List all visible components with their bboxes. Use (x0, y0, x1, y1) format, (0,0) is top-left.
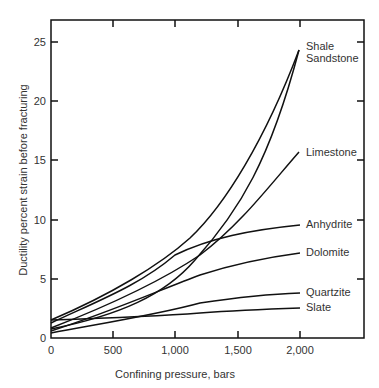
x-tick-label: 1,000 (161, 344, 189, 356)
label-anhydrite: Anhydrite (306, 218, 352, 230)
y-tick-label: 25 (34, 36, 46, 48)
y-tick-label: 5 (40, 273, 46, 285)
x-tick-label: 0 (48, 344, 54, 356)
label-shale: Shale (306, 40, 334, 52)
label-quartzite: Quartzite (306, 286, 351, 298)
y-tick-label: 20 (34, 95, 46, 107)
series-labels: Shale Sandstone Limestone Anhydrite Dolo… (306, 40, 359, 313)
x-axis-title: Confining pressure, bars (115, 368, 235, 380)
y-tick-label: 10 (34, 214, 46, 226)
series-lines (51, 50, 300, 333)
x-tick-label: 500 (104, 344, 122, 356)
y-tick-label: 0 (40, 332, 46, 344)
x-tick-labels: 0 500 1,000 1,500 2,000 (48, 344, 314, 356)
x-ticks (113, 20, 300, 338)
label-dolomite: Dolomite (306, 246, 349, 258)
series-sandstone (51, 50, 299, 329)
x-tick-label: 2,000 (286, 344, 314, 356)
y-tick-label: 15 (34, 154, 46, 166)
x-tick-label: 1,500 (224, 344, 252, 356)
label-slate: Slate (306, 301, 331, 313)
series-slate (51, 308, 300, 320)
y-ticks (51, 42, 364, 279)
label-limestone: Limestone (306, 146, 357, 158)
label-sandstone: Sandstone (306, 52, 359, 64)
y-tick-labels: 0 5 10 15 20 25 (34, 36, 46, 344)
chart: 0 500 1,000 1,500 2,000 0 5 10 15 20 25 … (0, 0, 379, 388)
series-limestone (51, 152, 299, 328)
y-axis-title: Ductility percent strain before fracturi… (17, 84, 29, 275)
